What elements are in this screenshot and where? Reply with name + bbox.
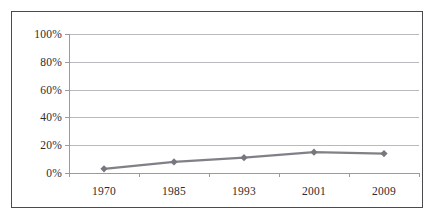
y-axis-tick-label: 80%	[40, 56, 62, 68]
x-axis-tick-label: 2009	[372, 185, 396, 197]
data-point-marker	[170, 158, 177, 165]
y-axis-tick-label: 20%	[40, 139, 62, 151]
data-point-marker	[240, 154, 247, 161]
x-tick-mark	[349, 173, 350, 177]
y-axis-tick-label: 0%	[46, 167, 62, 179]
gridline	[69, 173, 419, 174]
data-point-marker	[100, 165, 107, 172]
x-axis-tick-label: 1993	[232, 185, 256, 197]
series-line-chart	[69, 34, 419, 173]
chart-figure: 0%20%40%60%80%100% 19701985199320012009	[0, 0, 438, 221]
x-axis-tick-label: 1985	[162, 185, 186, 197]
plot-area: 0%20%40%60%80%100% 19701985199320012009	[69, 34, 419, 173]
x-axis-tick-label: 1970	[92, 185, 116, 197]
x-axis-tick-label: 2001	[302, 185, 326, 197]
x-tick-mark	[139, 173, 140, 177]
y-axis-tick-label: 100%	[34, 28, 62, 40]
data-point-marker	[310, 149, 317, 156]
chart-frame: 0%20%40%60%80%100% 19701985199320012009	[11, 11, 423, 208]
y-axis-tick-label: 40%	[40, 111, 62, 123]
x-tick-mark	[209, 173, 210, 177]
data-point-marker	[380, 150, 387, 157]
x-tick-mark	[419, 173, 420, 177]
y-axis-tick-label: 60%	[40, 84, 62, 96]
x-tick-mark	[279, 173, 280, 177]
x-tick-mark	[69, 173, 70, 177]
